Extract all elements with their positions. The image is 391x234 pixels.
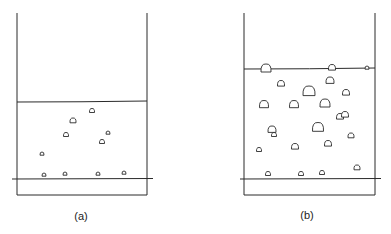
bubble-icon: [319, 170, 324, 174]
panel-a-label: (a): [74, 210, 87, 222]
bubble-icon: [268, 126, 276, 132]
bubble-icon: [348, 133, 354, 138]
bubble-icon: [354, 165, 360, 170]
bubble-icon: [291, 143, 298, 149]
bubble-icon: [42, 173, 46, 176]
liquid-surface-line: [17, 101, 147, 102]
bubble-icon: [271, 132, 276, 136]
bubble-icon: [312, 122, 323, 131]
bubble-icon: [99, 139, 104, 143]
bubble-icon: [122, 171, 126, 174]
bubble-icon: [289, 100, 298, 107]
baseline: [240, 179, 381, 180]
bubble-icon: [63, 172, 67, 175]
bubble-icon: [298, 171, 303, 175]
bubble-icon: [320, 99, 330, 107]
bubble-icon: [89, 108, 94, 112]
bubble-icon: [259, 100, 268, 107]
bubble-icon: [341, 111, 348, 117]
bubble-icon: [303, 86, 315, 96]
bubble-icon: [365, 66, 369, 69]
bubble-icon: [96, 172, 100, 175]
bubble-icon: [256, 147, 261, 151]
bubble-icon: [326, 77, 334, 83]
bubble-icon: [70, 118, 76, 123]
bubble-icon: [324, 140, 331, 146]
bubble-icon: [106, 131, 110, 134]
bubble-icon: [265, 171, 270, 175]
bubble-icon: [328, 64, 335, 70]
panel-b-container-with-many-bubbles: [240, 13, 381, 195]
bubble-icon: [40, 152, 44, 155]
container-walls: [17, 13, 147, 195]
baseline: [12, 179, 153, 180]
bubble-icon: [277, 80, 284, 86]
panel-b-label: (b): [300, 209, 313, 221]
diagram-canvas: [0, 0, 391, 234]
bubble-icon: [63, 132, 68, 136]
panel-a-container-with-few-bubbles: [12, 13, 153, 195]
bubble-icon: [342, 89, 349, 95]
bubble-icon: [261, 64, 271, 72]
